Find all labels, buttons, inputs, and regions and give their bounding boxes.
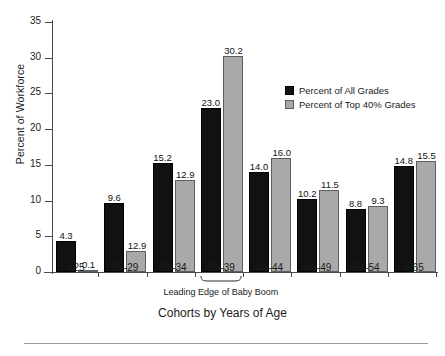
bar[interactable]: 30.2 [223, 56, 243, 272]
y-tick-label-35: 35 [30, 15, 41, 26]
y-tick-label-20: 20 [30, 122, 41, 133]
bar-value-label: 12.9 [176, 169, 195, 180]
legend-item-all-grades: Percent of All Grades [285, 84, 416, 96]
plot-area: 05101520253035 4.30.19.612.915.212.923.0… [52, 22, 438, 272]
bar-group: 14.815.5 [392, 22, 440, 272]
bar-group: 9.612.9 [102, 22, 150, 272]
x-category-label: 35–39 [197, 262, 245, 273]
bar-value-label: 15.2 [153, 152, 172, 163]
bar-group: 4.30.1 [54, 22, 102, 272]
bar-value-label: 9.3 [371, 195, 384, 206]
bar-group: 8.89.3 [344, 22, 392, 272]
legend-item-top-40-grades: Percent of Top 40% Grades [285, 98, 416, 110]
bar-value-label: 15.5 [417, 150, 436, 161]
y-tick-35: 35 [45, 22, 52, 23]
bar-group: 23.030.2 [199, 22, 247, 272]
x-category-label: 50–54 [342, 262, 390, 273]
legend-swatch-icon-top-40-grades [285, 100, 294, 109]
bar-value-label: 16.0 [272, 147, 291, 158]
bar-group: 10.211.5 [295, 22, 343, 272]
y-tick-30: 30 [45, 58, 52, 59]
bar[interactable]: 11.5 [319, 190, 339, 272]
legend-label-all-grades: Percent of All Grades [299, 85, 389, 96]
x-category-label: 45–49 [293, 262, 341, 273]
y-tick-10: 10 [45, 201, 52, 202]
y-tick-label-5: 5 [35, 229, 41, 240]
y-tick-label-25: 25 [30, 86, 41, 97]
x-axis-title: Cohorts by Years of Age [0, 306, 445, 320]
bar-value-label: 9.6 [108, 192, 121, 203]
bar-value-label: 4.3 [59, 230, 72, 241]
bar[interactable]: 12.9 [175, 180, 195, 272]
bar[interactable]: 15.2 [153, 163, 173, 272]
bar[interactable]: 16.0 [271, 158, 291, 272]
bar-group: 15.212.9 [151, 22, 199, 272]
y-tick-25: 25 [45, 93, 52, 94]
bar-value-label: 12.9 [128, 240, 147, 251]
bar-value-label: 10.2 [298, 188, 317, 199]
y-axis-title: Percent of Workforce [14, 34, 26, 194]
y-tick-5: 5 [45, 236, 52, 237]
x-category-label: 30–34 [149, 262, 197, 273]
bar[interactable]: 15.5 [416, 161, 436, 272]
baby-boom-brace-icon [200, 276, 242, 282]
bar-value-label: 14.8 [395, 155, 414, 166]
bar[interactable]: 14.0 [249, 172, 269, 272]
bar-value-label: 30.2 [224, 45, 243, 56]
y-tick-20: 20 [45, 129, 52, 130]
legend-swatch-icon-all-grades [285, 86, 294, 95]
baby-boom-annotation: Leading Edge of Baby Boom [121, 287, 321, 297]
x-category-label: > 65 [390, 262, 438, 273]
chart-legend: Percent of All Grades Percent of Top 40%… [285, 84, 416, 112]
y-tick-15: 15 [45, 165, 52, 166]
bar[interactable]: 23.0 [201, 108, 221, 272]
footer-divider [24, 343, 428, 344]
chart-figure: Percent of Workforce 05101520253035 4.30… [0, 0, 445, 356]
bar-value-label: 11.5 [321, 179, 339, 190]
bar[interactable]: 14.8 [394, 166, 414, 272]
x-category-label: <25 [52, 262, 100, 273]
x-category-label: 25–29 [100, 262, 148, 273]
y-axis-line [52, 20, 53, 274]
bar-value-label: 14.0 [250, 161, 269, 172]
y-tick-label-10: 10 [30, 194, 41, 205]
y-tick-label-15: 15 [30, 158, 41, 169]
y-tick-label-30: 30 [30, 51, 41, 62]
bar-value-label: 8.8 [349, 198, 362, 209]
bar-group: 14.016.0 [247, 22, 295, 272]
x-category-label: 40–44 [245, 262, 293, 273]
bar-value-label: 23.0 [202, 97, 221, 108]
y-tick-label-0: 0 [35, 265, 41, 276]
legend-label-top-40-grades: Percent of Top 40% Grades [299, 99, 416, 110]
y-tick-0: 0 [45, 272, 52, 273]
